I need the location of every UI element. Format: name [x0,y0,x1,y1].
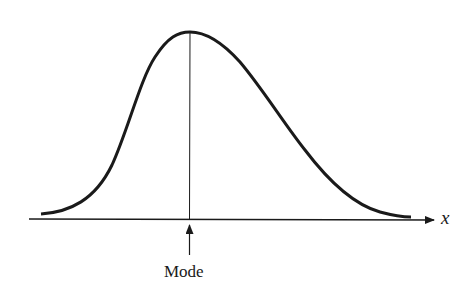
mode-label: Mode [164,262,204,282]
x-axis-label: x [441,207,449,229]
density-curve [41,32,411,217]
mode-line [190,33,191,219]
x-axis [29,219,434,220]
density-diagram [0,0,476,295]
